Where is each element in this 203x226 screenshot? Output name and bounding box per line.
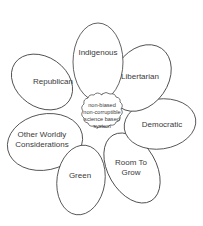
petal-label-other-worldly: Other Worldly Considerations (15, 130, 68, 150)
petal-label-democratic: Democratic (142, 120, 182, 130)
room-to-grow-line-2: Grow (115, 168, 147, 178)
center-line-3: science based (77, 116, 127, 123)
other-worldly-line-1: Other Worldly (15, 130, 68, 140)
center-line-2: non-corruptible (77, 109, 127, 116)
petal-label-indigenous: Indigenous (78, 48, 117, 58)
petal-indigenous (73, 23, 123, 101)
petal-label-room-to-grow: Room To Grow (115, 158, 147, 178)
other-worldly-line-2: Considerations (15, 140, 68, 150)
center-line-1: non-biased (77, 102, 127, 109)
center-line-4: system (77, 123, 127, 130)
petal-label-green: Green (69, 171, 91, 181)
petal-label-republican: Republican (33, 77, 73, 87)
center-label: non-biased non-corruptible science based… (77, 102, 127, 130)
flower-diagram: Indigenous Libertarian Democratic Room T… (0, 0, 203, 226)
petal-label-libertarian: Libertarian (121, 72, 159, 82)
room-to-grow-line-1: Room To (115, 158, 147, 168)
